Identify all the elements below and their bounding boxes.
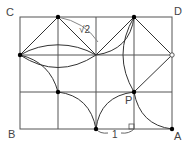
geometry-diagram: C D B A P 1 √2 — [0, 0, 185, 144]
label-d: D — [174, 5, 182, 17]
one-measure-right — [121, 129, 134, 133]
point-top-left — [56, 15, 60, 19]
arc-left-down — [20, 55, 58, 92]
arc-bottom-left — [58, 92, 96, 129]
point-bottom-mid — [94, 127, 98, 131]
label-p: P — [125, 94, 132, 106]
label-length-one: 1 — [112, 129, 118, 140]
label-c: C — [6, 6, 14, 18]
sqrt2-measure-arc — [58, 17, 98, 42]
point-p — [132, 90, 136, 94]
label-b: B — [8, 128, 15, 140]
label-a: A — [174, 130, 182, 142]
label-length-sqrt2: √2 — [79, 24, 90, 35]
point-right-hollow — [170, 53, 174, 57]
point-mid-left — [56, 90, 60, 94]
right-angle-marker — [129, 124, 134, 129]
point-top-right — [132, 15, 136, 19]
arc-pa — [134, 92, 172, 129]
point-left — [18, 53, 22, 57]
grid — [20, 17, 172, 129]
